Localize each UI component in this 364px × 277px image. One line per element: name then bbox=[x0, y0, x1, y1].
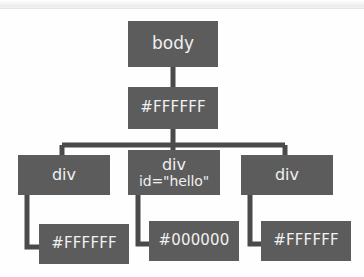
node-div-hello-tag: div bbox=[162, 157, 186, 174]
node-body-label: body bbox=[152, 35, 194, 53]
node-div-hello: div id="hello" bbox=[128, 150, 220, 195]
node-body-color: #FFFFFF bbox=[128, 87, 218, 129]
node-div-right-label: div bbox=[275, 167, 299, 184]
node-div-hello-id: id="hello" bbox=[139, 174, 209, 189]
node-div-left-label: div bbox=[52, 167, 76, 184]
node-div-hello-color: #000000 bbox=[149, 221, 239, 261]
node-body-color-label: #FFFFFF bbox=[140, 100, 206, 116]
node-div-right-color-label: #FFFFFF bbox=[273, 233, 339, 249]
node-body: body bbox=[128, 21, 218, 67]
node-div-left-color: #FFFFFF bbox=[39, 224, 129, 264]
node-div-hello-color-label: #000000 bbox=[158, 233, 229, 249]
node-div-right: div bbox=[241, 155, 333, 195]
dom-tree-diagram: body #FFFFFF div div id="hello" div #FFF… bbox=[0, 0, 364, 277]
node-div-left-color-label: #FFFFFF bbox=[51, 236, 117, 252]
node-div-left: div bbox=[18, 155, 110, 195]
node-div-right-color: #FFFFFF bbox=[261, 221, 351, 261]
